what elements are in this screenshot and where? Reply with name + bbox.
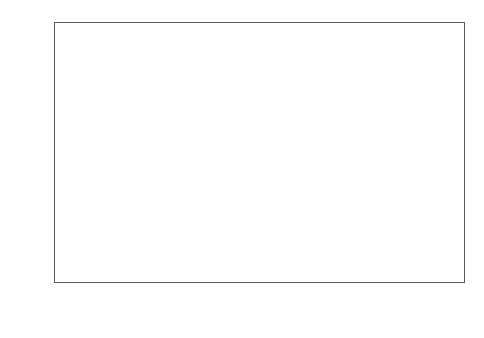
plot-area-frame: [54, 22, 465, 283]
scatter-chart: [0, 0, 484, 338]
